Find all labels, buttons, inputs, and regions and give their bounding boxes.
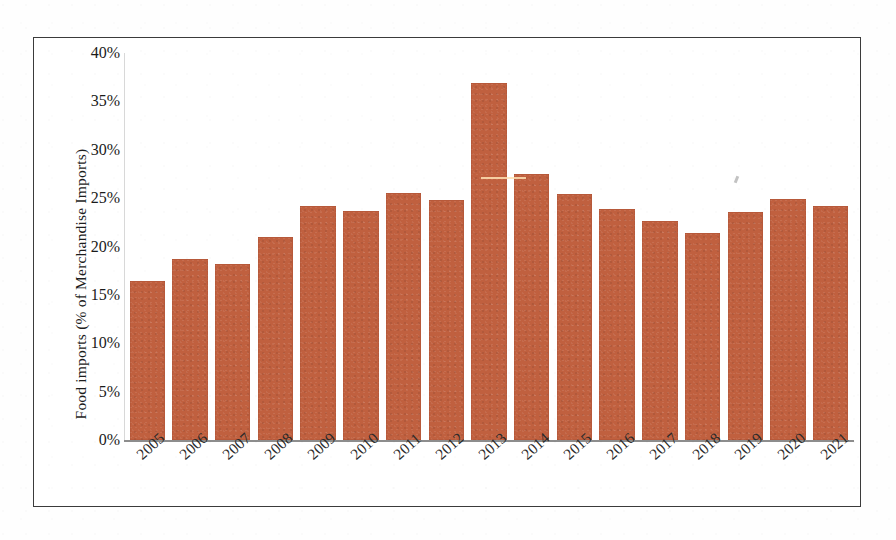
bar xyxy=(728,212,763,440)
y-tick-label: 35% xyxy=(62,92,120,110)
y-tick-label: 15% xyxy=(62,286,120,304)
y-tick-label: 20% xyxy=(62,238,120,256)
y-axis-tick-labels: 0%5%10%15%20%25%30%35%40% xyxy=(62,38,120,508)
y-axis-line xyxy=(124,53,125,440)
y-tick-label: 40% xyxy=(62,44,120,62)
bars-container xyxy=(126,53,852,440)
bar xyxy=(172,259,207,440)
bar xyxy=(813,206,848,440)
bar xyxy=(429,200,464,440)
bar xyxy=(599,209,634,440)
bar xyxy=(685,233,720,440)
bar xyxy=(130,281,165,440)
y-tick-label: 30% xyxy=(62,141,120,159)
figure-frame: Food imports (% of Merchandise Imports) … xyxy=(33,37,861,507)
bar xyxy=(642,221,677,440)
y-tick-label: 0% xyxy=(62,431,120,449)
chart-plot-area: Food imports (% of Merchandise Imports) … xyxy=(34,38,862,508)
bar xyxy=(557,194,592,440)
bar xyxy=(770,199,805,440)
bar xyxy=(343,211,378,440)
y-tick-label: 5% xyxy=(62,383,120,401)
bar xyxy=(514,174,549,440)
scanned-page: Food imports (% of Merchandise Imports) … xyxy=(0,0,896,540)
bar xyxy=(300,206,335,440)
y-tick-label: 10% xyxy=(62,334,120,352)
bar xyxy=(215,264,250,440)
bar xyxy=(258,237,293,440)
x-axis-tick-labels: 2005200620072008200920102011201220132014… xyxy=(126,442,852,512)
bar xyxy=(471,83,506,440)
bar xyxy=(386,193,421,440)
y-tick-label: 25% xyxy=(62,189,120,207)
